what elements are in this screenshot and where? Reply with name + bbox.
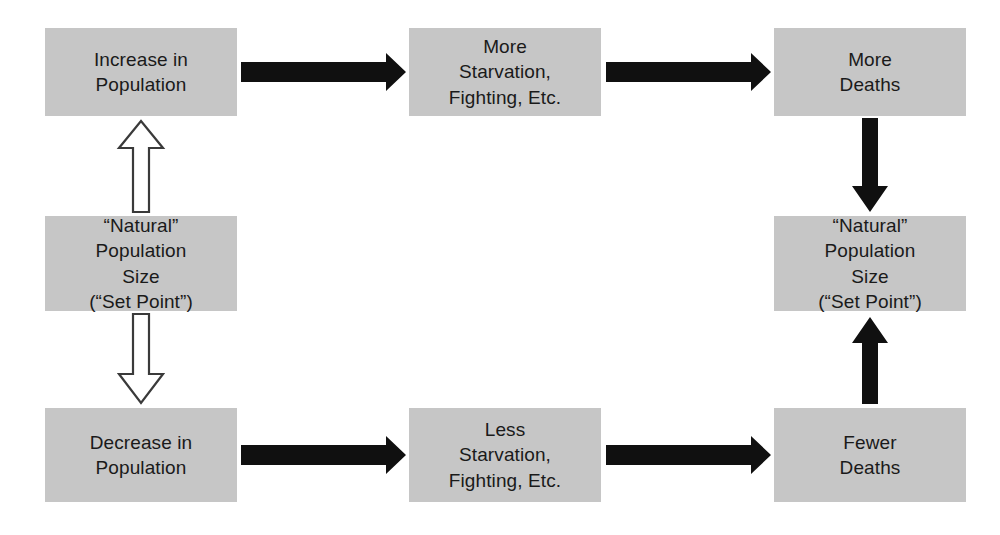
arrow-set-point-left-to-increase — [119, 121, 163, 212]
node-line: Deaths — [840, 72, 901, 97]
node-increase-in-population: Increase in Population — [45, 28, 237, 116]
node-line: Decrease in — [90, 430, 192, 455]
node-decrease-in-population: Decrease in Population — [45, 408, 237, 502]
node-line: Population — [825, 238, 916, 263]
node-line: Fewer — [843, 430, 896, 455]
node-line: More — [848, 47, 892, 72]
node-more-starvation: More Starvation, Fighting, Etc. — [409, 28, 601, 116]
arrow-less-starvation-to-fewer-deaths — [606, 436, 771, 474]
arrow-decrease-to-less-starvation — [241, 436, 406, 474]
node-line: (“Set Point”) — [818, 289, 922, 314]
arrow-more-starvation-to-more-deaths — [606, 53, 771, 91]
node-line: Less — [485, 417, 526, 442]
node-line: Starvation, — [459, 59, 551, 84]
node-line: (“Set Point”) — [89, 289, 193, 314]
flow-diagram: Increase in Population More Starvation, … — [0, 0, 1000, 535]
node-line: Deaths — [840, 455, 901, 480]
arrow-more-deaths-to-set-point-right — [852, 118, 888, 212]
arrow-fewer-deaths-to-set-point-right — [852, 317, 888, 404]
node-line: “Natural” — [833, 213, 908, 238]
node-fewer-deaths: Fewer Deaths — [774, 408, 966, 502]
node-line: Population — [96, 238, 187, 263]
node-set-point-left: “Natural” Population Size (“Set Point”) — [45, 216, 237, 311]
arrow-set-point-left-to-decrease — [119, 314, 163, 403]
node-line: More — [483, 34, 527, 59]
node-line: Fighting, Etc. — [449, 85, 561, 110]
node-line: Increase in — [94, 47, 188, 72]
node-line: Population — [96, 455, 187, 480]
node-line: Population — [96, 72, 187, 97]
arrow-increase-to-more-starvation — [241, 53, 406, 91]
node-more-deaths: More Deaths — [774, 28, 966, 116]
node-line: Size — [122, 264, 159, 289]
node-less-starvation: Less Starvation, Fighting, Etc. — [409, 408, 601, 502]
node-set-point-right: “Natural” Population Size (“Set Point”) — [774, 216, 966, 311]
node-line: Size — [851, 264, 888, 289]
node-line: Starvation, — [459, 442, 551, 467]
node-line: “Natural” — [104, 213, 179, 238]
node-line: Fighting, Etc. — [449, 468, 561, 493]
